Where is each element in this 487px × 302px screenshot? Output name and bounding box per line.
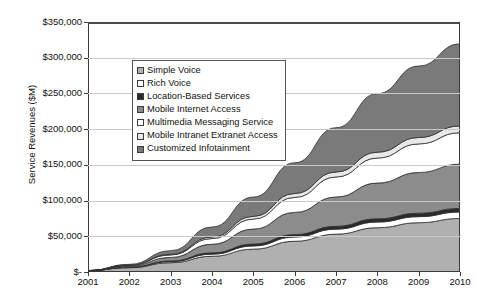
x-axis-tick-label: 2004: [189, 276, 235, 287]
y-axis-tickmark: [84, 236, 88, 237]
y-axis-tick-label: $250,000: [24, 87, 82, 98]
y-axis-tick-labels: $-$50,000$100,000$150,000$200,000$250,00…: [22, 0, 82, 302]
legend-item: Simple Voice: [137, 64, 278, 77]
x-axis-tick-label: 2008: [354, 276, 400, 287]
legend-item-label: Location-Based Services: [147, 92, 250, 101]
legend-swatch-icon: [137, 67, 144, 74]
legend-swatch-icon: [137, 93, 144, 100]
legend-item-label: Multimedia Messaging Service: [147, 118, 273, 127]
legend-item: Location-Based Services: [137, 90, 278, 103]
y-axis-tick-label: $150,000: [24, 158, 82, 169]
x-axis-tick-label: 2009: [396, 276, 442, 287]
y-axis-tickmark: [84, 201, 88, 202]
legend-swatch-icon: [137, 146, 144, 153]
legend-item-label: Simple Voice: [147, 66, 201, 75]
legend-item-label: Rich Voice: [147, 79, 191, 88]
chart-legend: Simple VoiceRich VoiceLocation-Based Ser…: [132, 60, 286, 161]
legend-item: Multimedia Messaging Service: [137, 116, 278, 129]
x-axis-tick-label: 2010: [437, 276, 483, 287]
plot-right-rule: [459, 22, 460, 272]
plot-top-rule: [88, 22, 460, 24]
y-axis-tickmark: [84, 165, 88, 166]
y-axis-tickmark: [84, 93, 88, 94]
x-axis-tick-label: 2005: [230, 276, 276, 287]
y-gridline: [88, 165, 460, 166]
y-axis-tickmark: [84, 22, 88, 23]
legend-item: Customized Infotainment: [137, 143, 278, 156]
x-axis-tick-labels: 2001200220032004200520062007200820092010: [88, 276, 460, 296]
y-axis-tick-label: $-: [24, 266, 82, 277]
legend-item: Mobile Internet Access: [137, 103, 278, 116]
stacked-area-chart: Service Revenues ($M) $-$50,000$100,000$…: [0, 0, 487, 302]
x-axis-tick-label: 2006: [272, 276, 318, 287]
x-axis-tick-label: 2001: [65, 276, 111, 287]
legend-swatch-icon: [137, 133, 144, 140]
legend-swatch-icon: [137, 119, 144, 126]
y-gridline: [88, 58, 460, 59]
legend-item: Rich Voice: [137, 77, 278, 90]
y-gridline: [88, 201, 460, 202]
y-axis-tick-label: $200,000: [24, 123, 82, 134]
y-axis-tick-label: $50,000: [24, 230, 82, 241]
y-axis-tick-label: $300,000: [24, 51, 82, 62]
legend-swatch-icon: [137, 80, 144, 87]
legend-item-label: Customized Infotainment: [147, 144, 250, 153]
x-axis-tick-label: 2003: [148, 276, 194, 287]
legend-item-label: Mobile Intranet Extranet Access: [147, 131, 278, 140]
y-axis-tick-label: $350,000: [24, 16, 82, 27]
y-gridline: [88, 236, 460, 237]
y-axis-tickmark: [84, 129, 88, 130]
y-axis-tickmark: [84, 58, 88, 59]
y-axis-tick-label: $100,000: [24, 194, 82, 205]
legend-item-label: Mobile Internet Access: [147, 105, 241, 114]
legend-item: Mobile Intranet Extranet Access: [137, 129, 278, 142]
x-axis-tick-label: 2002: [106, 276, 152, 287]
legend-swatch-icon: [137, 106, 144, 113]
x-axis-tick-label: 2007: [313, 276, 359, 287]
